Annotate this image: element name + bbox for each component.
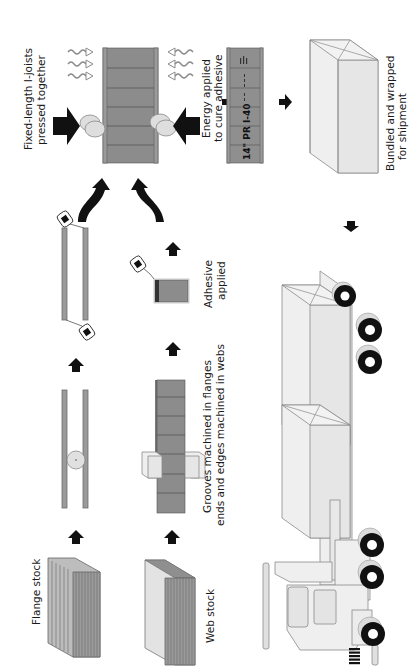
arrow-up-icon bbox=[68, 358, 84, 372]
web-machining bbox=[142, 380, 205, 513]
flange-stock-label: Flange stock bbox=[30, 558, 42, 625]
arrow-up-icon bbox=[165, 242, 181, 256]
finished-joist: 14" PR I-40 bbox=[227, 48, 263, 163]
grille-icon bbox=[349, 648, 360, 664]
arrow-up-icon bbox=[164, 530, 180, 544]
cure-label-line1: Energy applied bbox=[200, 59, 212, 138]
web-stock-bundle bbox=[145, 560, 195, 665]
shipping-truck bbox=[263, 271, 385, 665]
flange-grooving bbox=[62, 390, 88, 508]
process-diagram: Flange stock Web stock bbox=[0, 0, 415, 670]
flange-adhesive bbox=[56, 210, 96, 341]
arrow-up-icon bbox=[68, 530, 84, 544]
adhesive-label-line1: Adhesive bbox=[202, 260, 214, 308]
arrow-down-icon bbox=[343, 221, 359, 232]
press-arrow-right-icon bbox=[53, 107, 80, 145]
press-label-line2: pressed together bbox=[35, 54, 47, 145]
heat-waves-left bbox=[68, 48, 93, 80]
bundle-label-line1: Bundled and wrapped bbox=[384, 56, 396, 171]
adhesive-label-line2: applied bbox=[215, 261, 227, 300]
joist-stamp: 14" PR I-40 bbox=[242, 103, 252, 160]
machining-label-line2: ends and edges machined in webs bbox=[214, 344, 226, 526]
curved-merge-arrow-right bbox=[131, 178, 164, 222]
machining-label-line1: Grooves machined in flanges bbox=[201, 360, 213, 513]
arrow-up-icon bbox=[165, 342, 181, 356]
arrow-right-icon bbox=[279, 94, 292, 110]
press-arrow-left-icon bbox=[173, 107, 200, 145]
heat-waves-right bbox=[168, 48, 193, 80]
web-stock-label: Web stock bbox=[204, 588, 216, 643]
flange-stock-bundle bbox=[48, 558, 100, 657]
wrapped-bundle bbox=[310, 40, 378, 173]
bundle-label-line2: for shipment bbox=[396, 93, 408, 160]
curved-merge-arrow-left bbox=[78, 178, 110, 222]
press-joist bbox=[103, 48, 158, 163]
press-label-line1: Fixed-length I-joists bbox=[22, 48, 34, 150]
cure-label-line2: to cure adhesive bbox=[212, 55, 224, 142]
web-adhesive bbox=[129, 255, 189, 303]
